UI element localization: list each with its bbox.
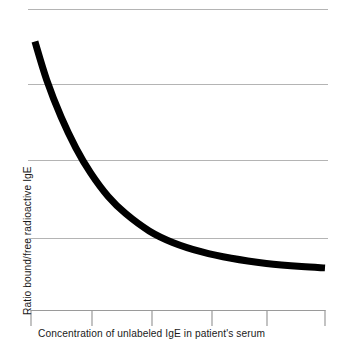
chart-figure: Concentration of unlabeled IgE in patien… xyxy=(0,0,337,349)
chart-background xyxy=(0,0,337,349)
x-axis-label: Concentration of unlabeled IgE in patien… xyxy=(38,328,265,339)
y-axis-label: Ratio bound/free radioactive IgE xyxy=(22,166,33,315)
chart-canvas xyxy=(0,0,337,349)
